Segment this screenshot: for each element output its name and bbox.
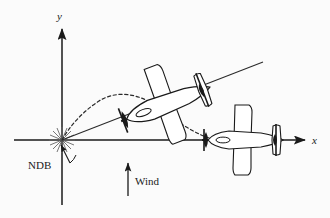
diagram-canvas <box>0 0 330 218</box>
aircraft-level <box>202 105 283 175</box>
aircraft-cockpit <box>216 137 230 143</box>
ndb-label: NDB <box>28 160 51 171</box>
wind-label: Wind <box>135 176 159 187</box>
ndb-homing-diagram: y x NDB Wind <box>0 0 330 218</box>
x-axis-label: x <box>312 135 317 146</box>
y-axis-label: y <box>57 11 62 22</box>
ndb-leader-line <box>61 145 76 163</box>
